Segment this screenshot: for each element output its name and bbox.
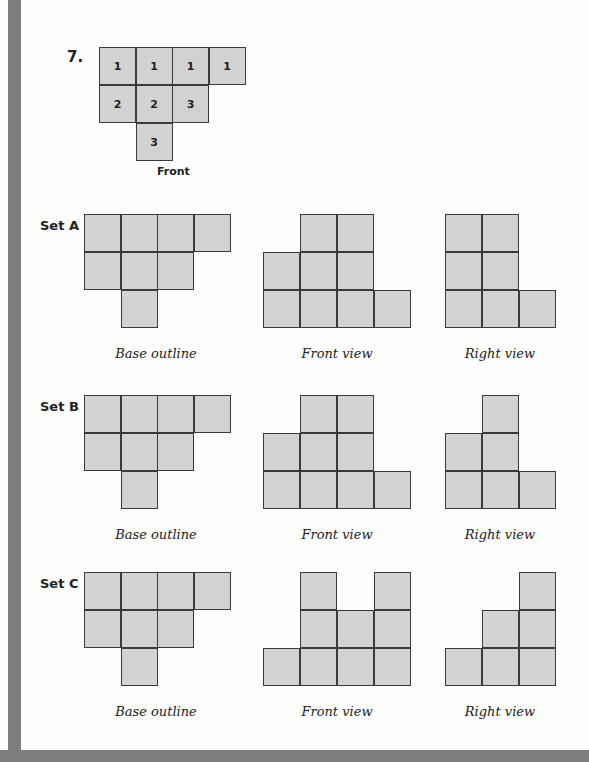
right-view-caption: Right view	[430, 346, 570, 361]
grid-cell	[337, 252, 374, 290]
grid-cell	[519, 290, 556, 328]
base-cell: 1	[209, 47, 246, 85]
grid-cell	[519, 572, 556, 610]
grid-cell	[300, 433, 337, 471]
grid-cell	[300, 648, 337, 686]
grid-cell	[84, 252, 121, 290]
grid-cell	[84, 610, 121, 648]
grid-cell	[157, 214, 194, 252]
grid-cell	[445, 290, 482, 328]
grid-cell	[157, 252, 194, 290]
page-side-bar	[8, 0, 21, 762]
grid-cell	[445, 471, 482, 509]
grid-cell	[519, 471, 556, 509]
grid-cell	[482, 610, 519, 648]
grid-cell	[300, 572, 337, 610]
grid-cell	[263, 648, 300, 686]
front-view-caption: Front view	[267, 704, 407, 719]
grid-cell	[482, 471, 519, 509]
base-view-caption: Base outline	[86, 527, 226, 542]
grid-cell	[445, 252, 482, 290]
base-cell: 1	[99, 47, 136, 85]
grid-cell	[121, 572, 158, 610]
grid-cell	[337, 471, 374, 509]
grid-cell	[157, 395, 194, 433]
page-bottom-bar	[0, 750, 589, 762]
grid-cell	[300, 395, 337, 433]
grid-cell	[445, 214, 482, 252]
base-cell: 3	[136, 123, 173, 161]
right-view-caption: Right view	[430, 704, 570, 719]
grid-cell	[121, 290, 158, 328]
base-view-caption: Base outline	[86, 704, 226, 719]
grid-cell	[337, 290, 374, 328]
grid-cell	[374, 290, 411, 328]
grid-cell	[121, 214, 158, 252]
base-cell: 1	[172, 47, 209, 85]
grid-cell	[300, 252, 337, 290]
grid-cell	[337, 214, 374, 252]
grid-cell	[482, 214, 519, 252]
grid-cell	[84, 395, 121, 433]
grid-cell	[374, 610, 411, 648]
grid-cell	[194, 395, 231, 433]
base-cell: 2	[136, 85, 173, 123]
grid-cell	[157, 572, 194, 610]
grid-cell	[374, 572, 411, 610]
grid-cell	[121, 471, 158, 509]
set-label: Set C	[40, 576, 78, 591]
grid-cell	[263, 252, 300, 290]
front-view-caption: Front view	[267, 346, 407, 361]
grid-cell	[194, 214, 231, 252]
grid-cell	[157, 610, 194, 648]
grid-cell	[157, 433, 194, 471]
grid-cell	[337, 648, 374, 686]
base-view-caption: Base outline	[86, 346, 226, 361]
grid-cell	[121, 395, 158, 433]
grid-cell	[337, 395, 374, 433]
base-cell: 1	[136, 47, 173, 85]
right-view-caption: Right view	[430, 527, 570, 542]
grid-cell	[121, 433, 158, 471]
grid-cell	[445, 648, 482, 686]
set-label: Set A	[40, 218, 79, 233]
grid-cell	[374, 648, 411, 686]
grid-cell	[445, 433, 482, 471]
grid-cell	[300, 471, 337, 509]
grid-cell	[482, 648, 519, 686]
set-label: Set B	[40, 399, 79, 414]
base-cell: 3	[172, 85, 209, 123]
grid-cell	[263, 471, 300, 509]
front-label: Front	[157, 165, 190, 178]
grid-cell	[121, 610, 158, 648]
grid-cell	[84, 572, 121, 610]
grid-cell	[121, 252, 158, 290]
grid-cell	[519, 610, 556, 648]
grid-cell	[194, 572, 231, 610]
base-cell: 2	[99, 85, 136, 123]
grid-cell	[337, 610, 374, 648]
grid-cell	[519, 648, 556, 686]
grid-cell	[263, 433, 300, 471]
front-view-caption: Front view	[267, 527, 407, 542]
grid-cell	[374, 471, 411, 509]
grid-cell	[300, 214, 337, 252]
grid-cell	[121, 648, 158, 686]
problem-number: 7.	[67, 48, 83, 66]
grid-cell	[263, 290, 300, 328]
grid-cell	[337, 433, 374, 471]
grid-cell	[482, 433, 519, 471]
grid-cell	[300, 290, 337, 328]
grid-cell	[482, 252, 519, 290]
grid-cell	[482, 395, 519, 433]
grid-cell	[482, 290, 519, 328]
grid-cell	[84, 433, 121, 471]
grid-cell	[84, 214, 121, 252]
grid-cell	[300, 610, 337, 648]
